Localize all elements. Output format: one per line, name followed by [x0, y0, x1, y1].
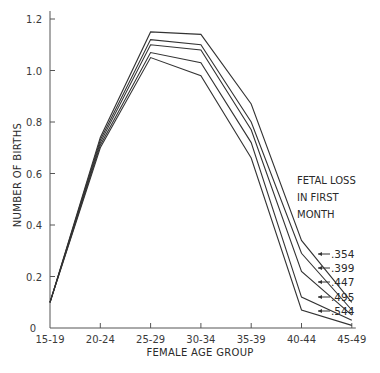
y-tick-label: 1.2	[26, 14, 42, 25]
arrowhead-icon	[318, 295, 322, 299]
y-tick-label: 1.0	[26, 66, 42, 77]
series-label: .354	[331, 248, 355, 260]
arrowhead-icon	[318, 266, 322, 270]
series-label: .495	[331, 291, 354, 303]
series-label: .544	[331, 305, 355, 317]
y-tick-label: 0.8	[26, 117, 42, 128]
y-axis-title: NUMBER OF BIRTHS	[12, 123, 23, 227]
y-tick-label: 0.2	[26, 272, 42, 283]
series-line-354	[50, 32, 352, 302]
x-tick-label: 15-19	[35, 334, 64, 345]
fetal-loss-births-chart: 00.20.40.60.81.01.215-1920-2425-2930-343…	[0, 0, 380, 373]
x-tick-label: 20-24	[86, 334, 115, 345]
x-tick-label: 30-34	[186, 334, 215, 345]
legend-title-line: FETAL LOSS	[297, 175, 356, 186]
series-line-495	[50, 53, 352, 321]
x-axis-title: FEMALE AGE GROUP	[146, 347, 253, 358]
legend-title-line: IN FIRST	[297, 192, 340, 203]
arrowhead-icon	[318, 280, 322, 284]
y-tick-label: 0	[30, 323, 36, 334]
x-tick-label: 40-44	[287, 334, 316, 345]
series-label: .447	[331, 276, 354, 288]
x-tick-label: 25-29	[136, 334, 165, 345]
arrowhead-icon	[318, 309, 322, 313]
legend-title-line: MONTH	[297, 209, 335, 220]
y-tick-label: 0.4	[26, 220, 42, 231]
x-tick-label: 35-39	[237, 334, 266, 345]
x-tick-label: 45-49	[337, 334, 366, 345]
legend-title: FETAL LOSSIN FIRSTMONTH	[297, 175, 356, 220]
arrowhead-icon	[318, 252, 322, 256]
y-tick-label: 0.6	[26, 169, 42, 180]
series-label: .399	[331, 262, 354, 274]
